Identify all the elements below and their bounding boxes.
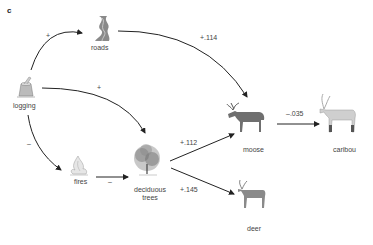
edge-label-trees-moose: +.112 xyxy=(180,139,197,146)
edge-label-fires-trees: – xyxy=(108,178,112,185)
edge-label-roads-moose: +.114 xyxy=(200,34,217,41)
edges-layer xyxy=(0,0,373,245)
node-moose-label: moose xyxy=(243,146,264,154)
moose-icon xyxy=(227,103,264,132)
caribou-icon xyxy=(320,94,355,132)
edge-roads-moose xyxy=(118,31,247,97)
node-caribou-label: caribou xyxy=(333,146,356,154)
edge-label-trees-deer: +.145 xyxy=(180,186,198,193)
node-trees-label: deciduous trees xyxy=(131,186,169,202)
road-icon xyxy=(95,16,109,41)
edge-label-logging-fires: – xyxy=(27,140,31,147)
node-fires-label: fires xyxy=(74,178,87,186)
deer-icon xyxy=(238,180,265,208)
node-roads-label: roads xyxy=(91,44,109,52)
edge-logging-roads xyxy=(31,32,82,70)
edge-label-logging-roads: + xyxy=(46,32,50,39)
edge-label-moose-caribou: –.035 xyxy=(286,110,304,117)
edge-label-logging-trees: + xyxy=(97,84,101,91)
node-trees-label-line2: trees xyxy=(131,194,169,202)
node-deer-label: deer xyxy=(247,225,261,233)
edge-logging-trees xyxy=(42,88,145,133)
tree-stump-icon xyxy=(17,77,35,97)
tree-icon xyxy=(134,144,160,175)
node-trees-label-line1: deciduous xyxy=(131,186,169,194)
edge-logging-fires xyxy=(28,115,61,170)
node-logging-label: logging xyxy=(13,102,36,110)
fire-icon xyxy=(70,156,88,175)
